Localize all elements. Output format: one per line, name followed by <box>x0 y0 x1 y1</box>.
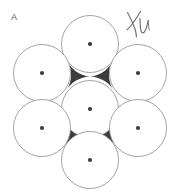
center-dot-bottom <box>88 158 92 162</box>
center-dot-top <box>88 42 92 46</box>
center-dot-center <box>88 107 92 111</box>
center-dot-upper-right <box>136 71 140 75</box>
center-dot-lower-right <box>136 126 140 130</box>
panel-label: A <box>11 12 17 22</box>
center-dot-lower-left <box>40 126 44 130</box>
close-packed-circles-diagram: A Hexagonal close-packed arrangement of … <box>0 0 185 194</box>
center-dot-upper-left <box>40 71 44 75</box>
figure-panel: A Hexagonal close-packed arrangement of … <box>0 0 185 194</box>
